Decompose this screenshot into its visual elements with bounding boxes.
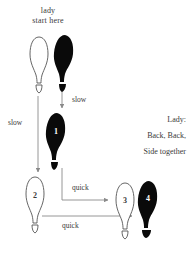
footprint-shape-solid <box>52 34 76 92</box>
caption-line-back-back: Back, Back, <box>80 131 186 140</box>
footprint-3: 3 <box>114 182 136 240</box>
footprint-start-right <box>52 34 76 92</box>
dance-step-diagram: lady start here Lady: Back, Back, Side t… <box>0 0 192 256</box>
footprint-start-left <box>28 36 50 94</box>
footprint-number-1: 1 <box>43 128 69 136</box>
footprint-shape-outline <box>28 36 50 94</box>
footprint-shape-solid <box>136 180 160 238</box>
heel-shape <box>51 162 58 170</box>
caption-line-lady: Lady: <box>80 115 186 124</box>
heel-shape <box>122 231 128 239</box>
footprint-number-4: 4 <box>136 195 160 203</box>
footprint-2: 2 <box>23 176 47 234</box>
footprint-shape-outline <box>23 176 47 234</box>
arrow-label-slow-right: slow <box>72 95 86 104</box>
footprint-shape-solid <box>43 112 69 170</box>
footprint-4: 4 <box>136 180 160 238</box>
arrow-label-quick-lower: quick <box>62 221 79 230</box>
heel-shape <box>32 225 38 233</box>
caption-line-side-together: Side together <box>80 147 186 156</box>
footprint-shape-outline <box>114 182 136 240</box>
heel-shape <box>142 230 151 238</box>
heel-shape <box>59 84 66 92</box>
heading-line-start-here: start here <box>0 16 96 25</box>
arrow-label-slow-left: slow <box>8 118 22 127</box>
arrow-label-quick-upper: quick <box>72 183 89 192</box>
footprint-1: 1 <box>43 112 69 170</box>
heel-shape <box>36 85 42 93</box>
heading-line-lady: lady <box>0 6 96 15</box>
footprint-number-2: 2 <box>23 192 47 200</box>
footprint-number-3: 3 <box>114 197 136 205</box>
